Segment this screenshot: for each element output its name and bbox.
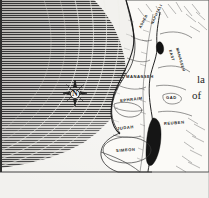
rift-valley-west-bank: [140, 14, 153, 172]
label-gad: GAD: [166, 95, 177, 100]
jordan-river: [148, 12, 160, 172]
label-east-manasseh-line1: EAST: [168, 49, 175, 61]
rift-shading-ticks: [137, 20, 150, 160]
tribal-boundaries-east: [156, 32, 192, 116]
compass-rose: N: [63, 80, 87, 106]
label-reuben: REUBEN: [164, 120, 185, 126]
sea-of-galilee: [156, 41, 165, 54]
mountain-hachures: [138, 2, 207, 172]
plate-left-edge: [0, 0, 2, 172]
page-text-fragment-la: la: [197, 74, 205, 85]
label-simeon: SIMEON: [116, 147, 136, 153]
label-naphtali: NAPHTALI: [150, 4, 163, 25]
label-manasseh: MANASSEH: [126, 74, 154, 79]
dead-sea: [146, 118, 161, 166]
label-ephraim: EPHRAIM: [120, 96, 143, 103]
label-judah: JUDAH: [117, 124, 134, 131]
compass-north-letter: N: [63, 89, 87, 99]
page-text-fragment-of: of: [192, 90, 201, 101]
map-figure: ASHER NAPHTALI MANASSEH EPHRAIM JUDAH SI…: [0, 0, 209, 198]
label-asher: ASHER: [138, 14, 149, 29]
southern-boundary: [101, 152, 140, 172]
label-east-manasseh-line2: MANASSEH: [175, 47, 186, 71]
